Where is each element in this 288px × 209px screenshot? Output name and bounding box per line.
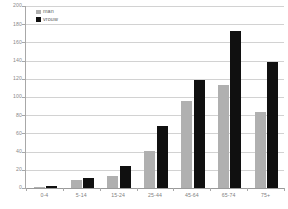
x-tick-6: [247, 188, 248, 191]
bar-man-15-24[interactable]: [107, 176, 118, 188]
x-tick-4: [173, 188, 174, 191]
y-axis-label-120: 120: [0, 76, 22, 81]
x-axis-label-45-64: 45-64: [173, 193, 210, 198]
bar-man-25-44[interactable]: [144, 151, 155, 188]
bar-group-65-74: [210, 6, 247, 188]
y-tick-200: [22, 6, 25, 7]
legend-swatch-vrouw-icon: [36, 17, 41, 22]
bar-group-15-24: [100, 6, 137, 188]
x-axis-label-75+: 75+: [247, 193, 284, 198]
y-axis-label-140: 140: [0, 58, 22, 63]
x-tick-2: [100, 188, 101, 191]
bar-vrouw-75+[interactable]: [267, 62, 278, 188]
y-tick-180: [22, 24, 25, 25]
x-tick-3: [137, 188, 138, 191]
bar-man-65-74[interactable]: [218, 85, 229, 188]
y-tick-0: [22, 188, 25, 189]
y-axis-label-0: 0: [0, 185, 22, 190]
bar-vrouw-15-24[interactable]: [120, 166, 131, 188]
bar-group-75+: [247, 6, 284, 188]
y-tick-160: [22, 42, 25, 43]
bar-vrouw-45-64[interactable]: [194, 80, 205, 188]
x-tick-0: [26, 188, 27, 191]
bars-layer: [26, 6, 284, 188]
bar-group-0-4: [26, 6, 63, 188]
legend-item-man[interactable]: man: [36, 9, 58, 15]
bar-vrouw-0-4[interactable]: [46, 186, 57, 188]
x-axis-label-65-74: 65-74: [210, 193, 247, 198]
y-tick-100: [22, 97, 25, 98]
x-axis-label-5-14: 5-14: [63, 193, 100, 198]
legend-item-vrouw[interactable]: vrouw: [36, 17, 58, 23]
x-tick-1: [63, 188, 64, 191]
bar-man-0-4[interactable]: [34, 187, 45, 188]
bar-group-5-14: [63, 6, 100, 188]
y-axis-label-200: 200: [0, 3, 22, 8]
bar-vrouw-65-74[interactable]: [230, 31, 241, 188]
y-axis-label-100: 100: [0, 94, 22, 99]
legend-label-man: man: [43, 9, 54, 14]
y-axis-label-80: 80: [0, 113, 22, 118]
y-axis-label-20: 20: [0, 167, 22, 172]
legend-label-vrouw: vrouw: [43, 17, 58, 22]
bar-group-45-64: [173, 6, 210, 188]
bar-man-45-64[interactable]: [181, 101, 192, 188]
chart-legend: man vrouw: [36, 9, 58, 24]
y-tick-20: [22, 170, 25, 171]
y-tick-40: [22, 152, 25, 153]
bar-group-25-44: [137, 6, 174, 188]
y-axis-label-60: 60: [0, 131, 22, 136]
bar-vrouw-25-44[interactable]: [157, 126, 168, 188]
y-tick-80: [22, 115, 25, 116]
bar-chart: 0-45-1415-2425-4445-6465-7475+ man vrouw…: [0, 0, 288, 209]
legend-swatch-man-icon: [36, 10, 41, 15]
bar-vrouw-5-14[interactable]: [83, 178, 94, 188]
y-axis-label-40: 40: [0, 149, 22, 154]
x-tick-end: [284, 188, 285, 191]
gridline-0: [26, 188, 284, 189]
y-axis-label-160: 160: [0, 40, 22, 45]
x-axis-label-0-4: 0-4: [26, 193, 63, 198]
bar-man-5-14[interactable]: [71, 180, 82, 188]
x-axis-label-15-24: 15-24: [100, 193, 137, 198]
y-tick-60: [22, 133, 25, 134]
y-axis-label-180: 180: [0, 22, 22, 27]
y-tick-140: [22, 61, 25, 62]
x-tick-5: [210, 188, 211, 191]
bar-man-75+[interactable]: [255, 112, 266, 188]
y-tick-120: [22, 79, 25, 80]
x-axis-label-25-44: 25-44: [137, 193, 174, 198]
